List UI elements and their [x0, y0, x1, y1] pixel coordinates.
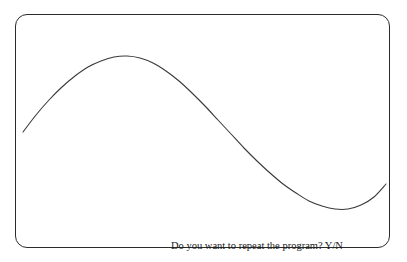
repeat-program-prompt: Do you want to repeat the program? Y/N: [171, 239, 371, 252]
sine-curve-path: [23, 56, 386, 209]
graphics-output-window: Do you want to repeat the program? Y/N: [15, 14, 390, 248]
sine-wave-plot: [16, 15, 391, 249]
sine-wave-svg: [16, 15, 391, 249]
